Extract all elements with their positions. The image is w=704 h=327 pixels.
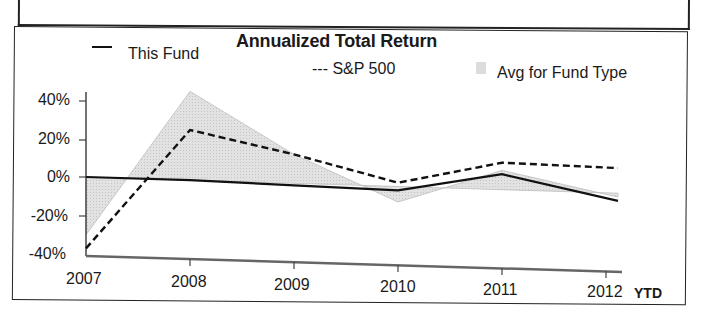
avg-fund-type-area <box>86 91 618 235</box>
avg-fund-type-polygon <box>86 91 618 235</box>
plot-area <box>0 0 704 327</box>
